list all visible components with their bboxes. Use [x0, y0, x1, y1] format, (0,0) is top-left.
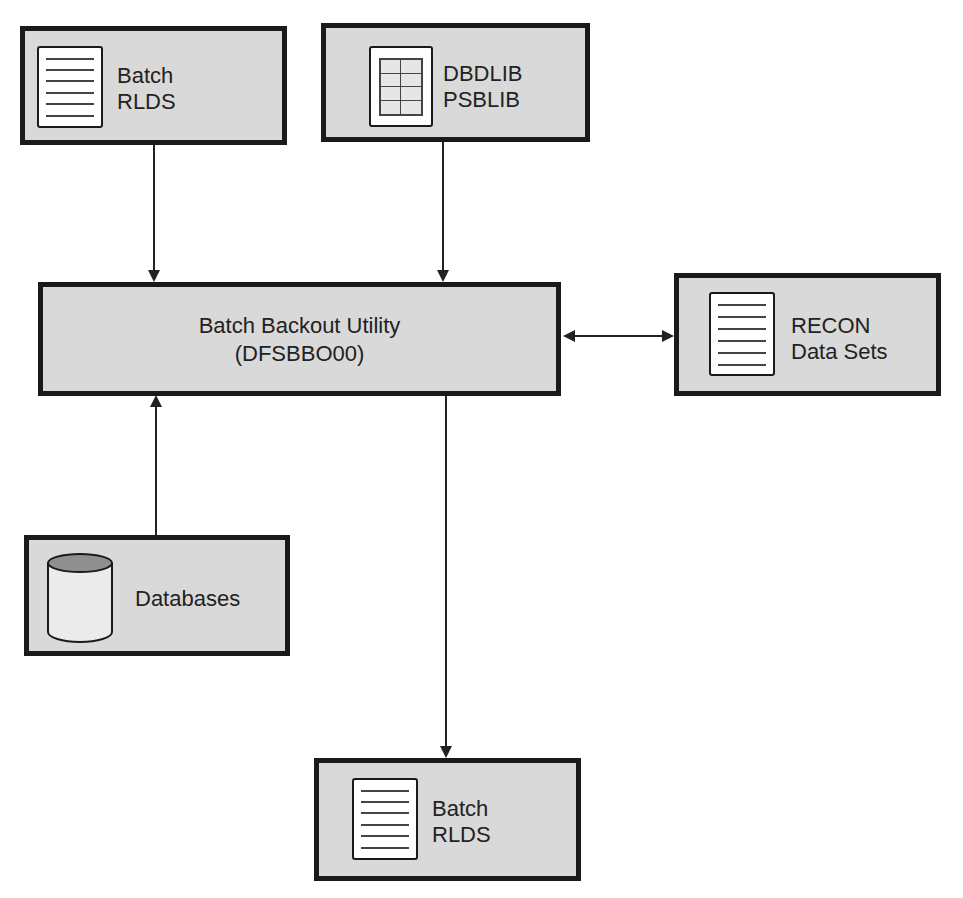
node-batch-backout-utility: Batch Backout Utility (DFSBBO00): [38, 282, 561, 396]
node-recon-data-sets: RECON Data Sets: [674, 273, 941, 396]
document-icon: [37, 46, 103, 128]
node-batch-rlds-input: Batch RLDS: [20, 26, 287, 145]
document-icon: [352, 778, 418, 860]
node-databases: Databases: [24, 535, 290, 656]
node-label: Batch RLDS: [117, 63, 176, 115]
node-label: DBDLIB PSBLIB: [443, 61, 522, 113]
node-label: Databases: [135, 586, 240, 612]
database-cylinder-icon: [45, 552, 115, 646]
document-icon: [709, 292, 775, 376]
node-label: Batch RLDS: [432, 796, 491, 848]
library-grid-icon: [369, 46, 433, 127]
node-label: RECON Data Sets: [791, 313, 888, 365]
node-dbdlib-psblib: DBDLIB PSBLIB: [321, 23, 590, 142]
node-batch-rlds-output: Batch RLDS: [314, 758, 581, 881]
node-label: Batch Backout Utility (DFSBBO00): [43, 312, 556, 368]
